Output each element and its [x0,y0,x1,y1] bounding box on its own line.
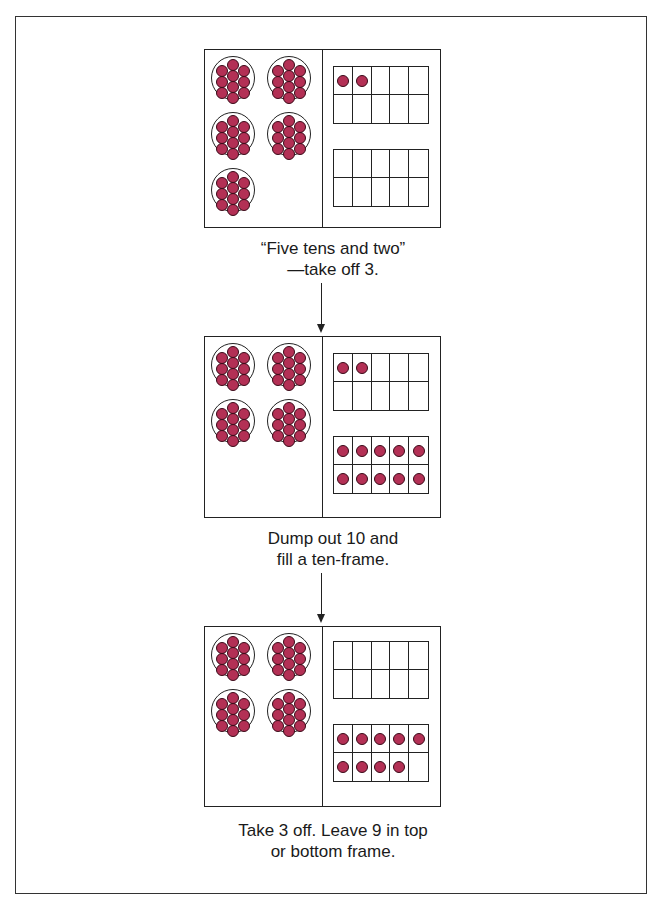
ten-frame-cell [409,178,428,206]
ten-frame-cell [353,642,372,670]
counter-icon [238,199,250,211]
step-1-panel [204,49,441,228]
ten-frame-cell [409,67,428,95]
cup-of-ten [211,56,255,100]
ten-frame-cell [334,670,353,698]
cup-of-ten [211,168,255,212]
cup-of-ten [267,112,311,156]
counter-icon [294,87,306,99]
bottom-ten-frame [333,149,429,207]
counter-icon [356,75,368,87]
counter-icon [294,720,306,732]
ten-frame-cell [334,178,353,206]
ten-frame-cell [334,642,353,670]
ten-frame-cell [409,670,428,698]
caption-line: Dump out 10 and [150,528,516,549]
ten-frame-cell [372,753,391,781]
caption-line: fill a ten-frame. [150,549,516,570]
ten-frame-cell [390,437,409,465]
counter-icon [337,445,349,457]
cup-of-ten [267,689,311,733]
ten-frame-cell [390,753,409,781]
top-ten-frame [333,641,429,699]
counter-icon [374,761,386,773]
counter-icon [294,374,306,386]
ten-frame-cell [390,150,409,178]
ten-frame-cell [372,178,391,206]
ten-frame-cell [353,437,372,465]
ten-frame-cell [390,382,409,410]
counter-icon [356,362,368,374]
ten-frame-cell [372,95,391,123]
ten-frame-cell [390,670,409,698]
counter-icon [374,733,386,745]
counter-icon [413,445,425,457]
counter-icon [413,733,425,745]
ten-frame-cell [372,725,391,753]
ten-frame-cell [372,437,391,465]
counter-icon [238,720,250,732]
ten-frame-cell [353,150,372,178]
down-arrow-icon [321,573,322,621]
ten-frame-cell [390,642,409,670]
ten-frame-cell [409,354,428,382]
top-ten-frame [333,353,429,411]
ten-frame-cell [390,465,409,493]
ten-frame-cell [409,150,428,178]
ten-frame-cell [334,753,353,781]
counter-icon [337,473,349,485]
counter-icon [238,143,250,155]
cup-of-ten [267,56,311,100]
counter-icon [337,362,349,374]
ten-frame-cell [372,150,391,178]
counter-icon [294,664,306,676]
ten-frame-cell [409,753,428,781]
counter-icon [393,445,405,457]
ten-frame-cell [353,354,372,382]
counter-icon [393,733,405,745]
ten-frame-cell [334,67,353,95]
ten-frame-cell [353,67,372,95]
ten-frame-cell [353,465,372,493]
ten-frame-cell [353,95,372,123]
step-1-caption: “Five tens and two” —take off 3. [150,238,516,280]
counter-icon [238,374,250,386]
ten-frame-cell [372,642,391,670]
cup-of-ten [267,633,311,677]
ten-frame-cell [372,67,391,95]
counter-icon [294,143,306,155]
ten-frame-cell [334,382,353,410]
ten-frame-cell [353,670,372,698]
step-2-panel [204,336,441,518]
ten-frame-cell [334,354,353,382]
ten-frame-cell [334,465,353,493]
counter-icon [337,75,349,87]
counter-icon [356,733,368,745]
caption-line: Take 3 off. Leave 9 in top [150,820,516,841]
ten-frame-cell [390,354,409,382]
ten-frame-cell [390,178,409,206]
panel-divider [322,50,323,227]
counter-icon [238,87,250,99]
counter-icon [374,473,386,485]
ten-frame-cell [372,465,391,493]
counter-icon [413,473,425,485]
ten-frame-cell [353,178,372,206]
counter-icon [294,430,306,442]
cup-of-ten [211,343,255,387]
cup-of-ten [267,343,311,387]
cup-of-ten [211,689,255,733]
ten-frame-cell [409,95,428,123]
ten-frame-cell [334,437,353,465]
ten-frame-cell [409,382,428,410]
caption-line: —take off 3. [150,259,516,280]
ten-frame-cell [334,95,353,123]
counter-icon [393,761,405,773]
ten-frame-cell [334,150,353,178]
counter-icon [238,664,250,676]
counter-icon [374,445,386,457]
counter-icon [356,761,368,773]
counter-icon [356,445,368,457]
counter-icon [393,473,405,485]
down-arrow-icon [321,283,322,331]
